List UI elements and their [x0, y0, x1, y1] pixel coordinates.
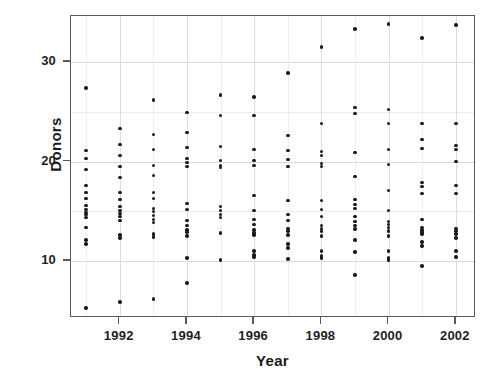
data-point: [185, 111, 189, 115]
data-point: [320, 215, 324, 219]
data-point: [152, 164, 156, 168]
data-point: [152, 221, 156, 225]
data-point: [286, 199, 290, 203]
data-point: [286, 246, 290, 250]
x-axis-title: Year: [70, 352, 475, 369]
data-point: [118, 236, 122, 240]
data-point: [353, 238, 357, 242]
data-point: [185, 202, 189, 206]
data-point: [286, 149, 290, 153]
data-point: [353, 106, 357, 110]
x-axis-tick-label: 1992: [104, 328, 134, 343]
data-point: [252, 194, 256, 198]
data-point: [252, 164, 256, 168]
data-point: [252, 209, 256, 213]
data-point: [320, 234, 324, 238]
data-point: [252, 148, 256, 152]
data-point: [454, 122, 458, 126]
gridline-vertical-minor: [355, 16, 356, 316]
data-point: [320, 199, 324, 203]
data-point: [454, 249, 458, 253]
data-point: [152, 297, 156, 301]
data-point: [252, 223, 256, 227]
data-point: [219, 145, 223, 149]
data-point: [185, 256, 189, 260]
data-point: [286, 71, 290, 75]
data-point: [185, 219, 189, 223]
data-point: [219, 216, 223, 220]
data-point: [118, 191, 122, 195]
data-point: [353, 273, 357, 277]
data-point: [219, 93, 223, 97]
scatter-plot-figure: Donors Year 1020301992199419961998200020…: [0, 0, 501, 379]
data-point: [219, 166, 223, 170]
data-point: [219, 231, 223, 235]
gridline-horizontal: [71, 62, 474, 63]
y-axis-tick-label: 30: [0, 53, 56, 68]
data-point: [320, 150, 324, 154]
data-point: [152, 133, 156, 137]
data-point: [320, 45, 324, 49]
data-point: [286, 134, 290, 138]
data-point: [420, 122, 424, 126]
x-axis-tick-label: 1996: [238, 328, 268, 343]
data-point: [84, 149, 88, 153]
data-point: [353, 112, 357, 116]
x-axis-tick-label: 2000: [373, 328, 403, 343]
data-point: [118, 154, 122, 158]
data-point: [353, 207, 357, 211]
gridline-horizontal-minor: [71, 112, 474, 113]
data-point: [185, 208, 189, 212]
data-point: [185, 224, 189, 228]
gridline-vertical-minor: [422, 16, 423, 316]
data-point: [286, 213, 290, 217]
data-point: [118, 205, 122, 209]
x-axis-tick-mark: [320, 317, 322, 324]
data-point: [387, 229, 391, 233]
data-point: [454, 148, 458, 152]
data-point: [387, 148, 391, 152]
data-point: [118, 215, 122, 219]
data-point: [387, 122, 391, 126]
data-point: [185, 281, 189, 285]
plot-frame: [70, 15, 475, 317]
data-point: [252, 218, 256, 222]
data-point: [84, 242, 88, 246]
data-point: [118, 165, 122, 169]
x-axis-tick-label: 1994: [171, 328, 201, 343]
data-point: [185, 161, 189, 165]
data-point: [454, 192, 458, 196]
data-point: [420, 244, 424, 248]
data-point: [320, 249, 324, 253]
data-point: [152, 98, 156, 102]
x-axis-tick-label: 2002: [440, 328, 470, 343]
data-point: [320, 154, 324, 158]
gridline-vertical-minor: [86, 16, 87, 316]
data-point: [84, 216, 88, 220]
x-axis-tick-mark: [252, 317, 254, 324]
data-point: [454, 255, 458, 259]
gridline-horizontal: [71, 162, 474, 163]
data-point: [387, 234, 391, 238]
data-point: [286, 158, 290, 162]
data-point: [152, 210, 156, 214]
data-point: [387, 189, 391, 193]
data-point: [152, 191, 156, 195]
data-point: [353, 151, 357, 155]
data-point: [118, 198, 122, 202]
y-axis-tick-mark: [63, 160, 70, 162]
y-axis-tick-mark: [63, 259, 70, 261]
data-point: [420, 36, 424, 40]
x-axis-tick-mark: [118, 317, 120, 324]
data-point: [454, 236, 458, 240]
data-point: [185, 234, 189, 238]
data-point: [84, 157, 88, 161]
x-axis-tick-mark: [185, 317, 187, 324]
data-point: [387, 22, 391, 26]
data-point: [353, 27, 357, 31]
data-point: [219, 114, 223, 118]
data-point: [353, 198, 357, 202]
data-point: [84, 184, 88, 188]
y-axis-tick-label: 10: [0, 252, 56, 267]
data-point: [84, 197, 88, 201]
